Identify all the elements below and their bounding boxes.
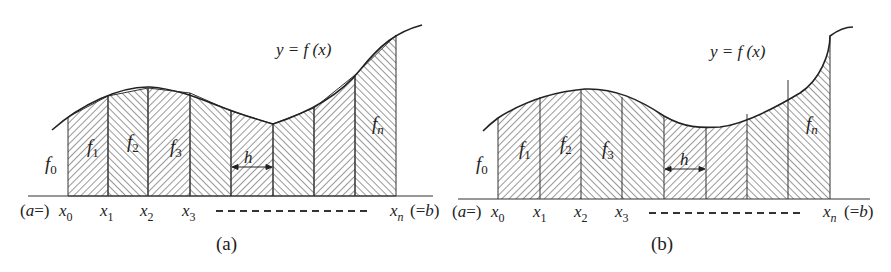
a-equals-label-b: (a=): [452, 202, 481, 221]
strip-b-7: [788, 20, 830, 199]
h-label-a: h: [244, 148, 253, 167]
f0-label-b: f0: [476, 153, 488, 177]
strip-b-3: [622, 20, 664, 199]
curve-label-a: y = f (x): [274, 40, 332, 59]
b-equals-label-b: (=b): [844, 202, 873, 221]
x0-label-b: x0: [490, 202, 505, 225]
x3-label-a: x3: [181, 201, 196, 224]
xn-label-b: xn: [822, 202, 837, 225]
x1-label-a: x1: [99, 201, 114, 224]
b-equals-label-a: (=b): [410, 201, 439, 220]
x2-label-a: x2: [139, 201, 154, 224]
panel-a: h f0 f1 f2 f3 fn y = f (x) (a=) x0 x1 x2…: [20, 25, 439, 255]
h-label-b: h: [680, 150, 689, 169]
caption-a: (a): [216, 233, 237, 255]
xn-label-a: xn: [389, 201, 404, 224]
strip-b-4: [664, 20, 706, 199]
x3-label-b: x3: [614, 202, 629, 225]
x0-label-a: x0: [58, 201, 73, 224]
x1-label-b: x1: [532, 202, 547, 225]
strip-b-1: [540, 20, 581, 199]
curve-label-b: y = f (x): [708, 42, 766, 61]
strip-b-0: [498, 20, 540, 199]
f0-label-a: f0: [45, 153, 57, 177]
strip-a-2: [148, 88, 190, 196]
panel-a-strips: [68, 35, 396, 196]
x2-label-b: x2: [573, 202, 588, 225]
caption-b: (b): [651, 233, 673, 255]
panel-b: h f0 f1 f2 f3 fn y = f (x) (a=) x0 x1 x2…: [452, 20, 873, 255]
a-equals-label-a: (a=): [20, 201, 49, 220]
strip-integration-figure: h f0 f1 f2 f3 fn y = f (x) (a=) x0 x1 x2…: [0, 0, 891, 272]
strip-b-2: [581, 20, 622, 199]
